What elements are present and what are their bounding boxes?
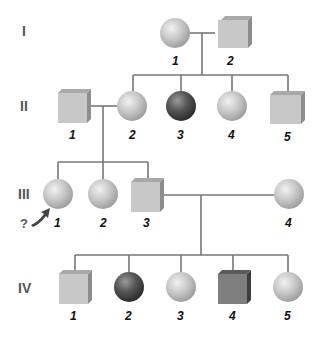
female-unaffected-symbol: [160, 18, 190, 48]
female-unaffected-symbol: [273, 272, 303, 302]
individual-IV-2: 2: [114, 272, 144, 323]
individual-IV-5: 5: [273, 272, 303, 323]
individual-label: 2: [124, 309, 132, 323]
question-mark: ?: [20, 216, 28, 231]
individual-II-2: 2: [117, 91, 147, 142]
individual-III-1: 1: [43, 179, 73, 230]
individual-label: 1: [69, 128, 76, 142]
individual-IV-1: 1: [59, 270, 92, 323]
female-affected-symbol: [166, 91, 196, 121]
proband-marker: ?: [20, 208, 50, 231]
generation-label-I: I: [22, 23, 26, 39]
male-affected-symbol: [218, 274, 247, 304]
individual-II-3: 3: [166, 91, 196, 142]
individual-label: 2: [99, 216, 107, 230]
female-unaffected-symbol: [43, 179, 73, 209]
individual-label: 2: [128, 128, 136, 142]
individual-label: 1: [54, 216, 61, 230]
generation-label-IV: IV: [18, 280, 32, 296]
individual-IV-3: 3: [166, 272, 196, 323]
male-unaffected-symbol: [58, 93, 87, 123]
pedigree-lines: [58, 33, 288, 272]
individual-label: 2: [226, 54, 234, 68]
individual-III-3: 3: [131, 178, 164, 230]
individual-label: 3: [177, 128, 184, 142]
female-affected-symbol: [114, 272, 144, 302]
proband-arrow-icon: [31, 208, 50, 227]
individual-label: 4: [228, 309, 236, 323]
individual-III-4: 4: [274, 179, 304, 230]
individual-II-5: 5: [270, 91, 305, 144]
male-unaffected-symbol: [59, 274, 88, 304]
male-unaffected-symbol: [218, 20, 248, 48]
individual-label: 5: [284, 130, 291, 144]
female-unaffected-symbol: [166, 272, 196, 302]
individual-II-1: 1: [58, 89, 91, 142]
individual-I-1: 1: [160, 18, 190, 68]
individual-label: 1: [172, 54, 179, 68]
pedigree-chart: I II III IV 1 2 1 2 3 4 5 1: [0, 0, 315, 344]
individual-label: 4: [227, 128, 235, 142]
individual-label: 5: [284, 309, 291, 323]
male-unaffected-symbol: [270, 95, 301, 124]
female-unaffected-symbol: [88, 179, 118, 209]
female-unaffected-symbol: [217, 91, 247, 121]
individual-IV-4: 4: [218, 270, 251, 323]
individual-III-2: 2: [88, 179, 118, 230]
individual-II-4: 4: [217, 91, 247, 142]
individual-label: 4: [284, 216, 292, 230]
generation-label-II: II: [20, 98, 28, 114]
male-unaffected-symbol: [131, 182, 160, 212]
individual-label: 3: [143, 216, 150, 230]
female-unaffected-symbol: [274, 179, 304, 209]
generation-label-III: III: [18, 186, 30, 202]
individual-label: 1: [70, 309, 77, 323]
female-unaffected-symbol: [117, 91, 147, 121]
individual-label: 3: [177, 309, 184, 323]
individual-I-2: 2: [218, 16, 252, 68]
